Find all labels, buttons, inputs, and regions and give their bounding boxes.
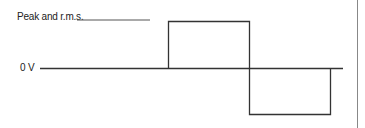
square-wave-diagram [0,0,365,128]
negative-half-cycle [250,69,331,115]
positive-half-cycle [169,22,250,69]
